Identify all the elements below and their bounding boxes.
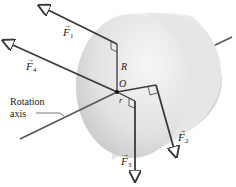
svg-text:1: 1 [70,32,74,40]
svg-text:→: → [121,150,129,159]
label-axis: axis [10,108,26,119]
label-R: R [120,61,127,72]
svg-text:3: 3 [128,161,132,169]
label-O: O [119,78,126,89]
torque-diagram: F 1 → F 4 → F 2 → F 3 → R O r Rotation a… [0,0,236,187]
svg-text:4: 4 [33,66,37,74]
label-rotation: Rotation [10,96,44,107]
label-F1: F 1 → [62,21,74,40]
svg-text:2: 2 [185,137,189,145]
axis-leader-tick [60,113,64,116]
label-r: r [119,95,123,105]
svg-text:→: → [63,21,71,30]
svg-text:→: → [178,126,186,135]
svg-text:→: → [26,55,34,64]
origin-point [115,90,119,94]
label-F4: F 4 → [25,55,37,74]
